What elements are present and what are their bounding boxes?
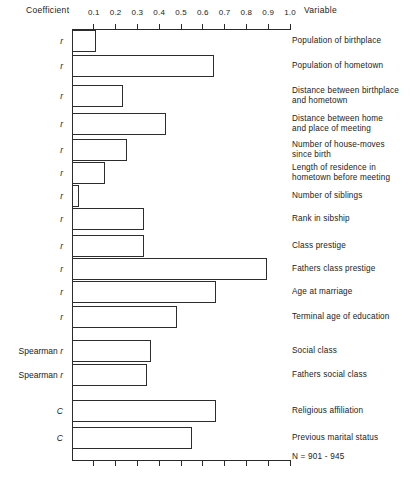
axis-tick-label: 0.1 [88,8,100,17]
axis-tick-bottom [268,461,269,466]
coefficient-column-header: Coefficient [26,5,69,15]
bar [72,162,106,184]
coefficient-label: r [60,61,63,71]
coefficient-label: Spearman r [19,346,63,356]
coefficient-label: r [60,287,63,297]
bar [72,185,80,207]
bar [72,340,151,362]
axis-line-top [72,29,291,30]
coefficient-label: r [60,214,63,224]
axis-tick-bottom [181,461,182,466]
axis-tick-label: 0.7 [219,8,231,17]
axis-tick-bottom [159,461,160,466]
axis-tick-bottom [246,461,247,466]
variable-label: Terminal age of education [292,312,390,322]
variable-label: Number of siblings [292,191,363,201]
coefficient-label: r [60,91,63,101]
variable-label: Population of birthplace [292,36,381,46]
coefficient-label: r [60,312,63,322]
variable-label: Length of residence in hometown before m… [292,163,390,182]
coefficient-label: r [60,191,63,201]
bar [72,258,267,280]
bar [72,427,193,449]
axis-tick-bottom [115,461,116,466]
variable-label: Fathers social class [292,370,367,380]
coefficient-label: r [60,119,63,129]
variable-label: Population of hometown [292,61,383,71]
bar [72,85,123,107]
axis-tick-bottom [137,461,138,466]
axis-tick-top [181,24,182,29]
axis-tick-bottom [290,461,291,466]
variable-label: Number of house-moves since birth [292,140,385,159]
sample-size-note: N = 901 - 945 [292,452,344,461]
axis-tick-label: 0.3 [132,8,144,17]
axis-tick-bottom [224,461,225,466]
variable-label: Distance between birthplace and hometown [292,86,399,105]
bar [72,364,147,386]
axis-tick-top [246,24,247,29]
axis-tick-top [268,24,269,29]
axis-tick-top [290,24,291,29]
axis-tick-label: 0.6 [197,8,209,17]
axis-tick-top [93,24,94,29]
axis-tick-top [115,24,116,29]
axis-tick-bottom [93,461,94,466]
variable-label: Social class [292,346,337,356]
coefficient-label: C [57,406,63,416]
axis-tick-top [224,24,225,29]
axis-tick-top [202,24,203,29]
axis-tick-label: 0.4 [153,8,165,17]
axis-tick-label: 0.8 [241,8,253,17]
axis-tick-bottom [202,461,203,466]
variable-label: Fathers class prestige [292,264,375,274]
bar [72,139,128,161]
bar [72,113,167,135]
coefficient-label: r [60,168,63,178]
variable-label: Distance between home and place of meeti… [292,114,383,133]
coefficient-label: r [60,36,63,46]
coefficient-label: C [57,433,63,443]
variable-label: Class prestige [292,241,346,251]
coefficient-label: r [60,145,63,155]
variable-label: Religious affiliation [292,406,363,416]
variable-column-header: Variable [304,5,337,15]
bar [72,55,215,77]
bar [72,30,97,52]
bar [72,281,217,303]
bar [72,235,145,257]
coefficient-label: Spearman r [19,370,63,380]
axis-tick-label: 0.5 [175,8,187,17]
correlation-bar-chart: Coefficient Variable 0.10.20.30.40.50.60… [0,0,410,483]
coefficient-label: r [60,241,63,251]
variable-label: Rank in sibship [292,214,350,224]
variable-label: Previous marital status [292,433,378,443]
axis-tick-label: 0.9 [262,8,274,17]
axis-tick-top [137,24,138,29]
bar [72,208,145,230]
variable-label: Age at marriage [292,287,353,297]
axis-tick-label: 1.0 [284,8,296,17]
axis-tick-label: 0.2 [110,8,122,17]
coefficient-label: r [60,264,63,274]
axis-tick-top [159,24,160,29]
bar [72,400,217,422]
bar [72,306,178,328]
